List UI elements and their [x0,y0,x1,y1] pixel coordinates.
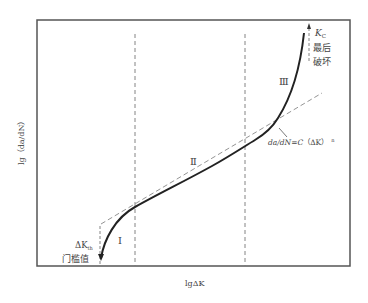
crack-growth-diagram: Ⅰ Ⅱ Ⅲ ΔKth 门槛值 KC 最后 破坏 da/dN=C（ΔK）n lg（… [0,0,368,303]
kc-caption-line2: 破坏 [313,56,331,67]
x-axis-label: lgΔK [185,279,205,288]
threshold-symbol: ΔKth [75,240,94,251]
paris-law-extension [101,93,322,224]
kc-symbol: KC [314,28,326,39]
formula-leader-line [279,128,287,137]
kc-caption-line1: 最后 [313,43,331,53]
threshold-arrow-icon [98,254,104,261]
paris-law-exponent: n [331,137,335,143]
threshold-symbol-main: ΔK [75,240,88,250]
threshold-caption: 门槛值 [62,253,89,264]
paris-law-rhs: （ΔK） [303,138,328,147]
region-label-3: Ⅲ [279,76,289,87]
y-axis-label: lg（da/dN） [17,117,26,165]
kc-symbol-sub: C [322,33,326,39]
paris-law-formula: da/dN=C（ΔK）n [268,137,335,147]
region-label-2: Ⅱ [190,156,197,167]
paris-law-lhs: da/dN=C [268,138,303,147]
threshold-symbol-sub: th [88,245,94,251]
kc-arrow-icon [307,23,311,29]
region-label-1: Ⅰ [118,235,122,246]
